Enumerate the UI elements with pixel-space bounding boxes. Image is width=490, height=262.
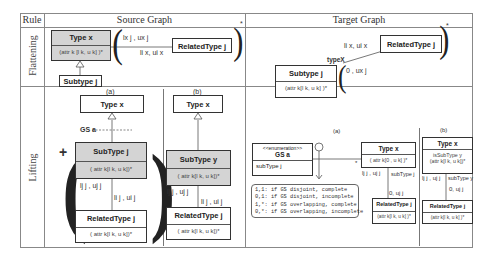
lifting-target-b-connectors (0, 0, 490, 262)
lifting-target-b-type-box: Type x isSubType y (attr k[l k, u k])* (422, 137, 473, 174)
edge-label-lj-uj: lj j , uj j (422, 175, 440, 181)
related-attrs: (attr k[l k, u k] )* (423, 212, 472, 220)
type-attr-issubtype: isSubType y (423, 149, 472, 158)
related-title: RelatedType j (423, 201, 472, 212)
edge-label-subtype: subType y (448, 175, 473, 181)
type-attrs: (attr k[l k, u k])* (423, 158, 472, 164)
edge-label-0-uj: 0, uj j (449, 186, 463, 192)
lifting-target-b-related-box: RelatedType j (attr k[l k, u k] )* (422, 200, 473, 224)
type-title: Type x (423, 138, 472, 149)
